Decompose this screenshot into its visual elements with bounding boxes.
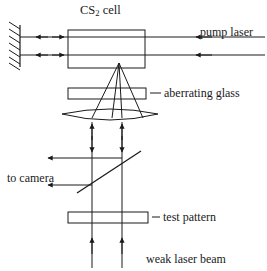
- label-cs2-cell-suffix: cell: [100, 3, 121, 17]
- signal-down-arrows: [92, 136, 122, 152]
- converging-beam-cone: [92, 63, 143, 118]
- label-cs2-cell: CS2 cell: [80, 4, 121, 18]
- beamsplitter-line: [77, 151, 141, 193]
- label-aberrating-glass: aberrating glass: [164, 87, 240, 99]
- label-test-pattern: test pattern: [163, 211, 216, 223]
- mirror-icon: [9, 22, 20, 70]
- label-pump-laser: pump laser: [200, 26, 253, 38]
- diagram-canvas: [0, 0, 267, 271]
- label-weak-laser-beam: weak laser beam: [146, 253, 226, 265]
- weak-laser-input-arrows: [92, 238, 122, 254]
- pump-laser-arrows: [196, 37, 212, 55]
- lens-input-arrows: [92, 124, 122, 140]
- label-cs2-cell-text: CS: [80, 3, 95, 17]
- lens-icon: [62, 109, 158, 120]
- cs2-cell-body: [68, 30, 145, 68]
- test-pattern-plate: [68, 212, 148, 223]
- label-to-camera: to camera: [7, 172, 54, 184]
- optical-diagram: CS2 cell pump laser aberrating glass to …: [0, 0, 267, 271]
